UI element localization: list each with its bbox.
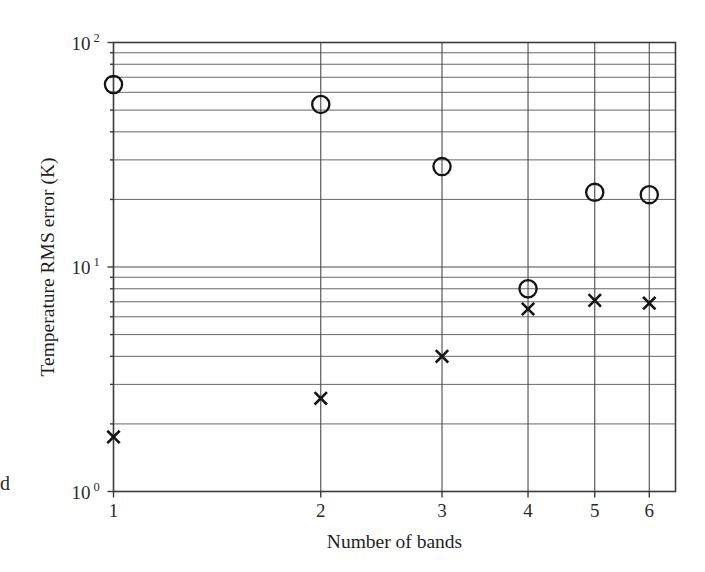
x-axis-tick-label: 2 [316,500,326,521]
x-axis-tick-label: 1 [109,500,119,521]
scatter-plot-log-log: 100101102123456Number of bandsTemperatur… [0,0,705,572]
y-tick-mantissa: 10 [72,257,91,278]
y-tick-mantissa: 10 [72,33,91,54]
y-tick-exponent: 1 [94,255,100,269]
x-axis-title: Number of bands [327,531,462,552]
x-axis-tick-label: 4 [523,500,533,521]
y-axis-title: Temperature RMS error (K) [37,157,59,376]
x-axis-tick-label: 6 [645,500,655,521]
y-tick-exponent: 2 [94,31,100,45]
y-tick-mantissa: 10 [72,482,91,503]
x-axis-tick-label: 3 [437,500,447,521]
y-axis-tick-label: 101 [72,255,100,278]
page-edge-text-fragment: d [0,473,14,493]
y-tick-exponent: 0 [94,480,100,494]
y-axis-tick-label: 100 [72,480,100,503]
x-axis-tick-label: 5 [590,500,600,521]
y-axis-tick-label: 102 [72,31,100,54]
chart-figure: 100101102123456Number of bandsTemperatur… [0,0,705,572]
